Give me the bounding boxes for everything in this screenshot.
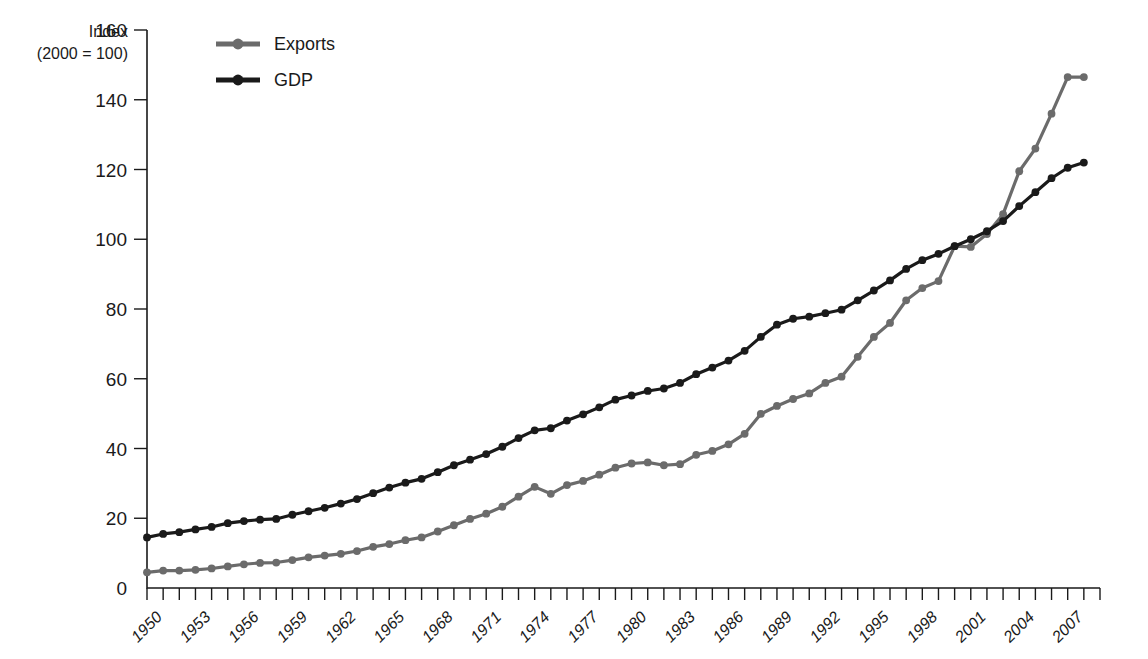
data-point — [515, 434, 523, 442]
data-point — [886, 277, 894, 285]
y-tick-label: 40 — [106, 439, 127, 460]
data-point — [224, 519, 232, 527]
data-point — [935, 250, 943, 258]
data-point — [660, 385, 668, 393]
data-point — [1080, 159, 1088, 167]
data-point — [224, 562, 232, 570]
data-point — [143, 534, 151, 542]
data-point — [353, 547, 361, 555]
data-point — [999, 217, 1007, 225]
data-point — [159, 567, 167, 575]
data-point — [838, 306, 846, 314]
data-point — [466, 515, 474, 523]
data-point — [240, 517, 248, 525]
data-point — [305, 507, 313, 515]
data-point — [935, 277, 943, 285]
data-point — [402, 479, 410, 487]
data-point — [418, 534, 426, 542]
data-point — [563, 481, 571, 489]
data-point — [498, 443, 506, 451]
data-point — [321, 504, 329, 512]
data-point — [337, 500, 345, 508]
data-point — [143, 568, 151, 576]
data-point — [805, 390, 813, 398]
legend-label: Exports — [274, 34, 335, 54]
data-point — [854, 296, 862, 304]
data-point — [612, 396, 620, 404]
data-point — [498, 503, 506, 511]
data-point — [466, 456, 474, 464]
data-point — [644, 387, 652, 395]
data-point — [1048, 174, 1056, 182]
data-point — [531, 483, 539, 491]
data-point — [805, 313, 813, 321]
y-tick-label: 80 — [106, 299, 127, 320]
data-point — [418, 475, 426, 483]
data-point — [676, 379, 684, 387]
legend-label: GDP — [274, 70, 313, 90]
data-point — [838, 373, 846, 381]
data-point — [321, 552, 329, 560]
data-point — [612, 464, 620, 472]
data-point — [1015, 202, 1023, 210]
y-tick-label: 60 — [106, 369, 127, 390]
data-point — [434, 528, 442, 536]
data-point — [708, 447, 716, 455]
data-point — [870, 333, 878, 341]
data-point — [628, 392, 636, 400]
data-point — [886, 319, 894, 327]
data-point — [741, 347, 749, 355]
data-point — [967, 235, 975, 243]
chart-figure: Index (2000 = 100) 020406080100120140160… — [0, 0, 1148, 659]
data-point — [515, 493, 523, 501]
data-point — [385, 540, 393, 548]
data-point — [482, 510, 490, 518]
data-point — [337, 550, 345, 558]
data-point — [644, 459, 652, 467]
data-point — [628, 460, 636, 468]
data-point — [918, 256, 926, 264]
data-point — [757, 410, 765, 418]
legend-swatch-marker — [233, 39, 244, 50]
data-point — [1064, 73, 1072, 81]
data-point — [579, 477, 587, 485]
y-tick-label: 0 — [116, 578, 127, 599]
data-point — [369, 489, 377, 497]
data-point — [208, 523, 216, 531]
data-point — [240, 560, 248, 568]
data-point — [256, 516, 264, 524]
data-point — [708, 364, 716, 372]
y-tick-label: 120 — [95, 160, 127, 181]
data-point — [967, 243, 975, 251]
data-point — [450, 461, 458, 469]
y-tick-label: 20 — [106, 508, 127, 529]
data-point — [256, 559, 264, 567]
data-point — [385, 484, 393, 492]
data-point — [192, 526, 200, 534]
data-point — [288, 511, 296, 519]
data-point — [482, 450, 490, 458]
y-tick-label: 160 — [95, 20, 127, 41]
data-point — [1064, 164, 1072, 172]
data-point — [1031, 145, 1039, 153]
data-point — [918, 284, 926, 292]
data-point — [660, 461, 668, 469]
data-point — [822, 309, 830, 317]
data-point — [822, 379, 830, 387]
data-point — [595, 403, 603, 411]
data-point — [1080, 73, 1088, 81]
data-point — [789, 315, 797, 323]
data-point — [563, 417, 571, 425]
legend-swatch-marker — [233, 75, 244, 86]
data-point — [288, 556, 296, 564]
data-point — [854, 353, 862, 361]
data-point — [870, 287, 878, 295]
data-point — [757, 333, 765, 341]
data-point — [192, 566, 200, 574]
data-point — [208, 565, 216, 573]
data-point — [595, 471, 603, 479]
data-point — [434, 468, 442, 476]
data-point — [450, 521, 458, 529]
data-point — [305, 553, 313, 561]
data-point — [983, 227, 991, 235]
